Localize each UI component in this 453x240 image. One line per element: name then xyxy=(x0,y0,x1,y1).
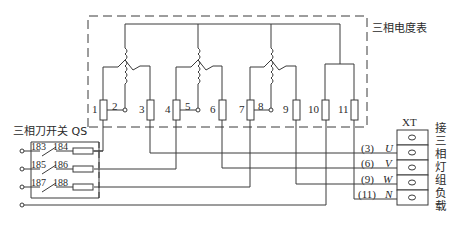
terminal-label-6: 6 xyxy=(210,104,216,115)
load-char: 载 xyxy=(434,200,447,213)
terminal-block-xt xyxy=(397,130,428,205)
meter-element-u xyxy=(100,48,154,120)
xt-row-v-num: (6) xyxy=(361,158,374,169)
terminal-label-8: 8 xyxy=(258,101,264,112)
terminal-label-1: 1 xyxy=(92,104,98,115)
contact-label-186: 186 xyxy=(53,159,68,170)
contact-label-188: 188 xyxy=(53,177,68,188)
xt-row-w-phase: W xyxy=(383,174,392,185)
contact-label-184: 184 xyxy=(53,141,68,152)
terminal-label-10: 10 xyxy=(308,104,319,115)
meter-top-bus xyxy=(125,24,354,102)
terminal-label-11: 11 xyxy=(338,104,349,115)
xt-row-n-num: (11) xyxy=(358,189,376,200)
terminal-label-7: 7 xyxy=(239,104,245,115)
xt-row-n-phase: N xyxy=(385,189,392,200)
terminal-label-9: 9 xyxy=(283,104,289,115)
meter-element-v xyxy=(173,48,226,120)
xt-row-v-phase: V xyxy=(385,158,392,169)
contact-label-185: 185 xyxy=(31,159,46,170)
contact-label-187: 187 xyxy=(31,177,46,188)
terminal-label-5: 5 xyxy=(185,101,191,112)
terminal-block-title: XT xyxy=(402,117,417,128)
xt-row-u-phase: U xyxy=(385,143,393,154)
terminal-label-4: 4 xyxy=(165,104,171,115)
terminal-label-2: 2 xyxy=(112,101,118,112)
xt-row-u-num: (3) xyxy=(361,143,374,154)
terminal-label-3: 3 xyxy=(139,104,145,115)
switch-title: 三相刀开关 QS xyxy=(13,126,87,137)
xt-row-w-num: (9) xyxy=(361,174,374,185)
meter-element-w xyxy=(247,48,300,120)
load-label: 接 三 相 灯 组 负 载 xyxy=(434,122,447,213)
meter-title: 三相电度表 xyxy=(372,23,427,34)
contact-label-183: 183 xyxy=(31,141,46,152)
